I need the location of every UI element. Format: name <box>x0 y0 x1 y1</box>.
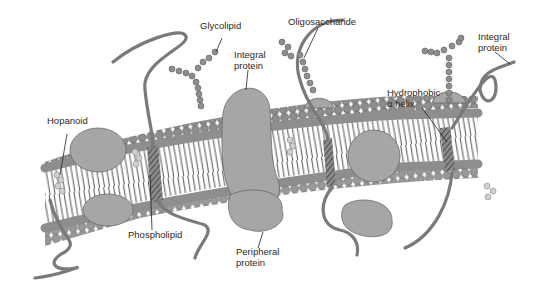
label-integral-protein-center: Integral protein <box>234 49 266 71</box>
membrane-diagram <box>0 0 533 283</box>
label-hopanoid: Hopanoid <box>47 115 88 126</box>
label-phospholipid: Phospholipid <box>128 229 182 240</box>
label-glycolipid: Glycolipid <box>200 20 241 31</box>
label-oligosaccharide: Oligosaccharide <box>288 16 356 27</box>
label-integral-protein-right: Integral protein <box>478 31 510 53</box>
label-peripheral-protein: Peripheral protein <box>236 246 279 268</box>
label-hydrophobic-helix: Hydrophobic α helix <box>387 87 440 109</box>
